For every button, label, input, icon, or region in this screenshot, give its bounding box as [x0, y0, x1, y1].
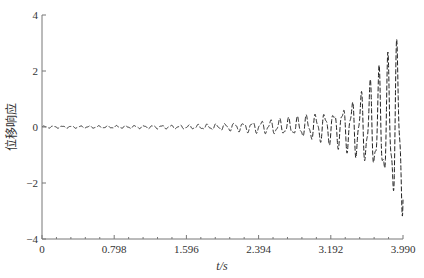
- x-tick-label: 2.394: [246, 243, 271, 255]
- y-tick-label: −2: [26, 177, 38, 189]
- y-tick-label: −4: [26, 233, 38, 245]
- y-ticks: 420−2−4: [26, 9, 46, 245]
- y-axis-title: 位移响应: [4, 103, 19, 151]
- chart: 00.7981.5962.3943.1923.990 420−2−4 t/s 位…: [0, 0, 424, 278]
- y-tick-label: 4: [33, 9, 39, 21]
- y-tick-label: 2: [33, 65, 39, 77]
- response-series: [42, 39, 403, 216]
- x-tick-label: 3.192: [318, 243, 343, 255]
- x-axis-title: t/s: [216, 259, 228, 273]
- x-tick-label: 1.596: [174, 243, 199, 255]
- x-ticks: 00.7981.5962.3943.1923.990: [39, 235, 416, 255]
- plot-area: [42, 39, 403, 216]
- x-tick-label: 0: [39, 243, 45, 255]
- y-tick-label: 0: [33, 121, 39, 133]
- x-tick-label: 3.990: [391, 243, 416, 255]
- x-tick-label: 0.798: [102, 243, 127, 255]
